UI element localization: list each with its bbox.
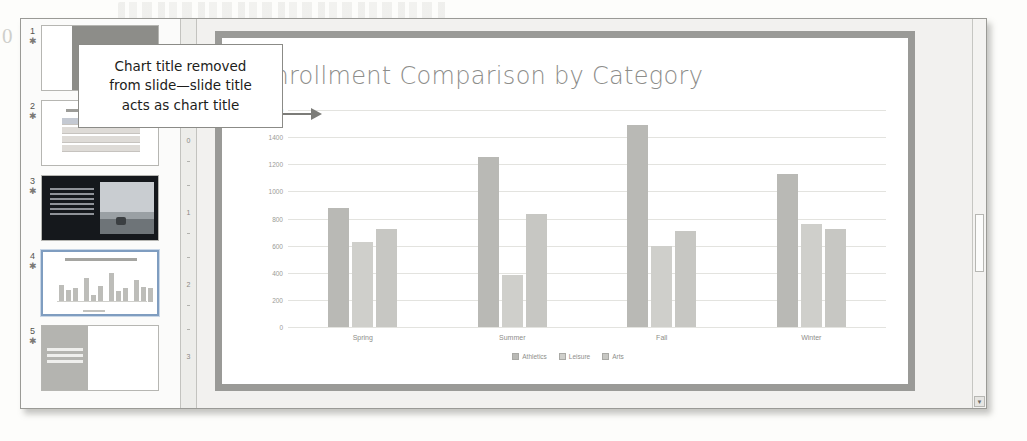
y-axis-label: 400 xyxy=(272,269,283,276)
y-axis-label: 200 xyxy=(272,296,283,303)
y-axis-label: 600 xyxy=(272,242,283,249)
chart-bar[interactable] xyxy=(376,229,397,327)
annotation-callout: Chart title removed from slide—slide tit… xyxy=(78,44,283,128)
legend-item[interactable]: Arts xyxy=(602,353,624,360)
chart-gridline xyxy=(288,327,886,328)
scrollbar-thumb[interactable] xyxy=(975,214,984,272)
x-axis-label: Fall xyxy=(656,334,667,341)
thumbnail-preview[interactable] xyxy=(41,325,159,391)
slide-number: 5 xyxy=(24,327,41,336)
chart-object[interactable]: 02004006008001000120014001600SpringSumme… xyxy=(242,106,894,378)
legend-label: Athletics xyxy=(522,353,547,360)
thumbnail-preview[interactable] xyxy=(41,175,159,241)
bar-group[interactable]: Winter xyxy=(737,110,887,327)
slide-title-line xyxy=(65,258,137,261)
thumbnail-gutter: 5 ✱ xyxy=(24,325,41,345)
chart-legend[interactable]: AthleticsLeisureArts xyxy=(242,353,894,360)
ruler-mark: 1 xyxy=(181,209,196,216)
vertical-scrollbar[interactable]: ▼ xyxy=(972,19,986,408)
thumbnail-gutter: 2 ✱ xyxy=(24,100,41,120)
scroll-down-icon[interactable]: ▼ xyxy=(974,396,985,407)
legend-swatch-icon xyxy=(559,353,566,360)
callout-line-1: Chart title removed xyxy=(115,57,247,76)
chart-bar[interactable] xyxy=(825,229,846,327)
slide-editing-area[interactable]: Enrollment Comparison by Category 020040… xyxy=(197,19,986,408)
x-axis-label: Summer xyxy=(499,334,525,341)
thumbnail-gutter: 3 ✱ xyxy=(24,175,41,195)
y-axis-label: 1400 xyxy=(269,134,283,141)
legend-label: Leisure xyxy=(569,353,590,360)
ruler-mark: 2 xyxy=(181,281,196,288)
thumbnail-preview-selected[interactable] xyxy=(41,250,159,316)
x-axis-label: Spring xyxy=(353,334,373,341)
x-axis-label: Winter xyxy=(801,334,821,341)
page-number-artifact: 0 xyxy=(2,24,13,49)
legend-swatch-icon xyxy=(512,353,519,360)
slide-number: 1 xyxy=(24,27,41,36)
chart-bar[interactable] xyxy=(526,214,547,327)
chart-bar[interactable] xyxy=(502,275,523,327)
callout-line-3: acts as chart title xyxy=(122,96,240,115)
text-lines xyxy=(50,188,94,218)
photo-placeholder xyxy=(100,182,154,234)
legend-label: Arts xyxy=(612,353,624,360)
chart-legend-line xyxy=(83,310,105,312)
chart-plot-area: 02004006008001000120014001600SpringSumme… xyxy=(288,110,886,328)
star-icon: ✱ xyxy=(24,262,41,270)
y-axis-label: 1200 xyxy=(269,161,283,168)
right-arrow-icon xyxy=(283,108,323,120)
chart-bar[interactable] xyxy=(777,174,798,327)
slide-number: 2 xyxy=(24,102,41,111)
chart-bar[interactable] xyxy=(651,246,672,327)
bar-group[interactable]: Summer xyxy=(438,110,588,327)
slide-number: 4 xyxy=(24,252,41,261)
slide-number: 3 xyxy=(24,177,41,186)
bar-group[interactable]: Fall xyxy=(587,110,737,327)
thumbnail-gutter: 1 ✱ xyxy=(24,25,41,45)
bar-group[interactable]: Spring xyxy=(288,110,438,327)
y-axis-label: 0 xyxy=(279,324,283,331)
chart-bar[interactable] xyxy=(352,242,373,327)
legend-item[interactable]: Athletics xyxy=(512,353,547,360)
star-icon: ✱ xyxy=(24,187,41,195)
text-panel xyxy=(42,326,88,390)
slide-title[interactable]: Enrollment Comparison by Category xyxy=(258,62,703,90)
star-icon: ✱ xyxy=(24,112,41,120)
current-slide[interactable]: Enrollment Comparison by Category 020040… xyxy=(215,31,915,391)
slide-thumbnail-5[interactable]: 5 ✱ xyxy=(21,325,180,391)
chart-bar[interactable] xyxy=(478,157,499,327)
chart-bar[interactable] xyxy=(801,224,822,327)
star-icon: ✱ xyxy=(24,337,41,345)
chart-bar[interactable] xyxy=(627,125,648,327)
chart-bar[interactable] xyxy=(328,208,349,327)
callout-line-2: from slide—slide title xyxy=(109,76,252,95)
legend-swatch-icon xyxy=(602,353,609,360)
chart-preview xyxy=(57,266,147,302)
y-axis-label: 800 xyxy=(272,215,283,222)
chart-bar[interactable] xyxy=(675,231,696,327)
thumbnail-gutter: 4 ✱ xyxy=(24,250,41,270)
ruler-mark: 0 xyxy=(181,137,196,144)
star-icon: ✱ xyxy=(24,37,41,45)
slide-thumbnail-3[interactable]: 3 ✱ xyxy=(21,175,180,241)
slide-thumbnail-4[interactable]: 4 ✱ xyxy=(21,250,180,316)
legend-item[interactable]: Leisure xyxy=(559,353,590,360)
y-axis-label: 1000 xyxy=(269,188,283,195)
ruler-mark: 3 xyxy=(181,353,196,360)
